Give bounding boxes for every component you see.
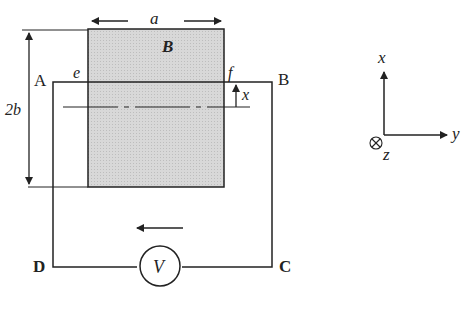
corner-f-label: f	[228, 64, 235, 82]
axis-y-label: y	[450, 124, 460, 143]
point-b-label: B	[278, 70, 289, 89]
magnetic-field-region	[88, 29, 224, 187]
circuit-diagram: a 2b B x e f A B D C V x y z	[0, 0, 464, 320]
width-label: a	[150, 9, 159, 28]
corner-e-label: e	[73, 64, 80, 81]
height-dimension	[22, 30, 88, 187]
displacement-label: x	[241, 86, 249, 103]
height-label: 2b	[5, 101, 21, 118]
axis-x-label: x	[377, 48, 386, 67]
axis-z-label: z	[382, 145, 390, 164]
point-c-label: C	[279, 257, 291, 276]
point-a-label: A	[34, 71, 47, 90]
field-label: B	[161, 37, 173, 56]
point-d-label: D	[33, 257, 45, 276]
coordinate-axes	[370, 72, 447, 149]
